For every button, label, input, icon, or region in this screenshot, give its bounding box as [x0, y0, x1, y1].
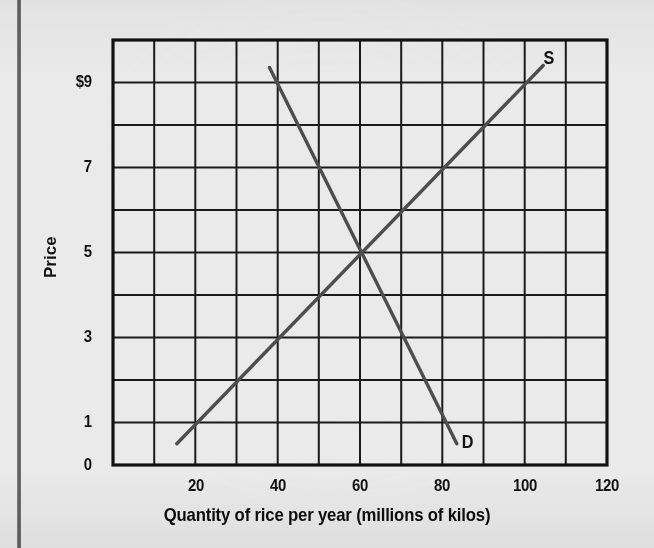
x-axis-title: Quantity of rice per year (millions of k… — [39, 504, 615, 526]
supply-demand-plot — [0, 0, 654, 548]
supply-curve-label: S — [544, 48, 555, 69]
chart-figure: $9 7 5 3 1 0 20 40 60 80 100 120 S D Pri… — [0, 0, 654, 548]
x-tick-label-100: 100 — [506, 476, 545, 496]
y-tick-label-3: 3 — [60, 327, 92, 347]
y-tick-label-1: 1 — [60, 412, 92, 432]
y-tick-label-9: $9 — [60, 72, 92, 92]
demand-curve-label: D — [462, 432, 474, 453]
x-tick-label-20: 20 — [177, 476, 216, 496]
x-tick-label-80: 80 — [423, 476, 462, 496]
y-axis-title: Price — [28, 222, 74, 292]
x-tick-label-60: 60 — [341, 476, 380, 496]
x-tick-label-120: 120 — [588, 476, 627, 496]
y-tick-label-0: 0 — [60, 455, 92, 475]
y-tick-label-7: 7 — [60, 157, 92, 177]
x-tick-label-40: 40 — [259, 476, 298, 496]
